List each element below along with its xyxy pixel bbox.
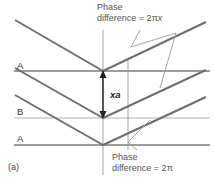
ray-middle-incident bbox=[15, 68, 103, 118]
phase-bottom-prefix: difference = 2 bbox=[112, 163, 167, 173]
panel-label: (a) bbox=[8, 162, 19, 173]
diagram-canvas bbox=[0, 0, 214, 180]
phase-top-prefix: difference = 2 bbox=[97, 13, 152, 23]
spacing-arrow bbox=[100, 70, 107, 119]
figure-container: A B A xa Phase difference = 2πx Phase di… bbox=[0, 0, 214, 180]
ray-bottom-incident bbox=[15, 95, 103, 145]
phase-top-line2: difference = 2πx bbox=[97, 13, 162, 24]
phase-bottom-line1: Phase bbox=[112, 152, 173, 163]
plane-label-b-middle: B bbox=[17, 106, 23, 117]
phase-bottom-line2: difference = 2π bbox=[112, 163, 173, 174]
plane-label-a-top: A bbox=[17, 60, 23, 71]
ray-bottom-reflected bbox=[103, 97, 206, 145]
phase-difference-bottom-label: Phase difference = 2π bbox=[112, 152, 173, 174]
phase-difference-top-label: Phase difference = 2πx bbox=[97, 2, 162, 24]
phase-top-suffix: x bbox=[158, 13, 163, 23]
phase-top-line1: Phase bbox=[97, 2, 162, 13]
ray-top-incident bbox=[15, 20, 103, 71]
phase-bottom-pi: π bbox=[167, 163, 173, 173]
plane-label-a-bottom: A bbox=[17, 133, 23, 144]
ray-top-reflected bbox=[103, 22, 206, 71]
spacing-label-xa: xa bbox=[110, 89, 121, 100]
